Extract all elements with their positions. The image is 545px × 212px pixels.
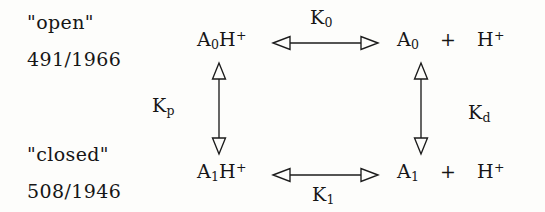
species-proton-top-charge: + [494,28,505,43]
constant-label-k0-subscript: 0 [325,15,333,30]
constant-label-k1-subscript: 1 [327,192,335,207]
species-a1h-plus: A1H+ [197,162,246,183]
species-proton-bottom-base: H [477,160,494,182]
species-a0: A0 [397,30,419,51]
species-a1-subscript: 1 [411,169,419,184]
row-label-closed: "closed" [27,145,109,164]
row-value-closed: 508/1946 [27,182,121,201]
equilibrium-arrow-kd [413,62,429,155]
equilibrium-arrow-kp [211,62,227,155]
species-proton-bottom: H+ [477,162,504,181]
row-label-open: "open" [27,13,94,32]
species-a1h-plus-rest: H [219,160,236,182]
plus-sign-top: + [440,30,456,49]
constant-label-kp: Kp [152,96,175,118]
species-proton-top-base: H [477,28,494,50]
equilibrium-arrow-k0 [272,35,379,51]
species-a0-subscript: 0 [411,37,419,52]
species-a1: A1 [397,162,419,183]
species-a0-base: A [397,28,411,50]
species-a0h-plus-subscript: 0 [211,37,219,52]
constant-label-kd: Kd [468,103,491,125]
constant-label-kp-subscript: p [167,103,175,118]
row-value-open: 491/1966 [27,50,121,69]
species-a1h-plus-subscript: 1 [211,169,219,184]
species-proton-bottom-charge: + [494,160,505,175]
species-a1-base: A [397,160,411,182]
constant-label-k1: K1 [312,185,335,207]
constant-label-k1-base: K [312,183,327,205]
species-a0h-plus-rest: H [219,28,236,50]
equilibrium-arrow-k1 [272,167,379,183]
species-a0h-plus-base: A [197,28,211,50]
constant-label-k0: K0 [310,8,333,30]
constant-label-k0-base: K [310,6,325,28]
species-a1h-plus-base: A [197,160,211,182]
species-a0h-plus: A0H+ [197,30,246,51]
constant-label-kp-base: K [152,94,167,116]
species-a0h-plus-charge: + [236,28,247,43]
species-a1h-plus-charge: + [236,160,247,175]
species-proton-top: H+ [477,30,504,49]
plus-sign-bottom: + [440,162,456,181]
thermodynamic-cycle-figure: "open" 491/1966 "closed" 508/1946 A0H+ A… [0,0,545,212]
constant-label-kd-subscript: d [483,110,491,125]
constant-label-kd-base: K [468,101,483,123]
